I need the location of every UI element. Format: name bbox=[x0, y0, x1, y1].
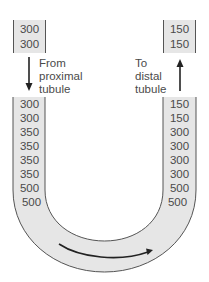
ascending-value: 300 bbox=[163, 139, 196, 153]
outflow-label: To distal tubule bbox=[135, 57, 166, 96]
descending-value: 350 bbox=[13, 139, 46, 153]
inflow-value-1: 300 bbox=[14, 22, 45, 36]
ascending-value: 500 bbox=[163, 181, 196, 195]
inflow-label-line1: From bbox=[39, 57, 82, 70]
descending-value: 300 bbox=[13, 111, 46, 125]
inflow-box: 300 300 bbox=[13, 20, 46, 53]
ascending-value: 300 bbox=[163, 125, 196, 139]
descending-value: 500 bbox=[15, 195, 48, 209]
descending-value: 350 bbox=[13, 125, 46, 139]
outflow-label-line3: tubule bbox=[135, 83, 166, 96]
inflow-label-line2: proximal bbox=[39, 70, 82, 83]
descending-value: 300 bbox=[13, 97, 46, 111]
inflow-label-line3: tubule bbox=[39, 83, 82, 96]
ascending-value: 300 bbox=[163, 153, 196, 167]
outflow-label-line2: distal bbox=[135, 70, 166, 83]
ascending-value: 150 bbox=[163, 97, 196, 111]
descending-value: 350 bbox=[13, 153, 46, 167]
ascending-value: 150 bbox=[163, 111, 196, 125]
outflow-value-1: 150 bbox=[164, 22, 195, 36]
outflow-arrow-icon bbox=[177, 59, 184, 91]
inflow-value-2: 300 bbox=[14, 37, 45, 51]
descending-value: 350 bbox=[13, 167, 46, 181]
ascending-value: 300 bbox=[163, 167, 196, 181]
loop-inner-wall bbox=[45, 97, 163, 241]
inflow-label: From proximal tubule bbox=[39, 57, 82, 96]
descending-value: 500 bbox=[13, 181, 46, 195]
ascending-value: 500 bbox=[161, 195, 194, 209]
outflow-label-line1: To bbox=[135, 57, 166, 70]
loop-of-henle-diagram: 300 300 150 150 From proximal tubule To … bbox=[0, 0, 209, 282]
inflow-arrow-icon bbox=[26, 57, 33, 91]
outflow-box: 150 150 bbox=[163, 20, 196, 53]
outflow-value-2: 150 bbox=[164, 37, 195, 51]
